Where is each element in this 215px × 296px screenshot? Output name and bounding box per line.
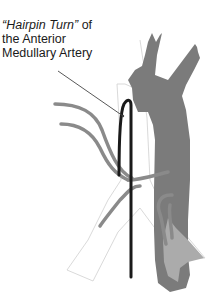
leader-line-tip (122, 115, 124, 117)
leader-line (58, 71, 123, 116)
anatomy-diagram (0, 0, 215, 296)
